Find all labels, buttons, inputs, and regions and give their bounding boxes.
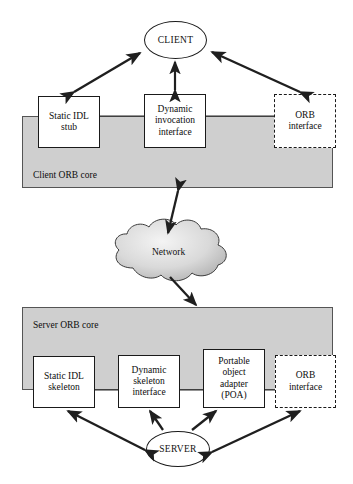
arrow-server-orb bbox=[212, 411, 300, 452]
arrow-stub-client bbox=[74, 53, 140, 92]
arrow-server-poa bbox=[192, 411, 216, 430]
arrow-network-servercore bbox=[170, 277, 196, 305]
arrow-clientcore-network bbox=[168, 191, 178, 233]
arrow-skeleton-server bbox=[68, 411, 145, 450]
corba-architecture-diagram: CLIENT Static IDL stub Dynamic invocatio… bbox=[0, 0, 353, 484]
arrow-orb-client bbox=[212, 52, 300, 92]
arrow-server-dsi bbox=[150, 411, 163, 430]
connector-arrows bbox=[0, 0, 353, 484]
